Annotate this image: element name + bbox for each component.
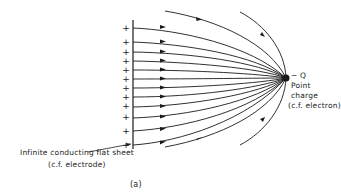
figure-caption: (a) xyxy=(130,180,142,189)
plus-charges: + + + + + + + + + + + + xyxy=(122,23,130,150)
sheet-label-line2: (c.f. electrode) xyxy=(48,160,106,169)
point-charge-dot xyxy=(283,75,290,82)
point-charge-label-line3: (c.f. electron) xyxy=(288,101,341,110)
svg-text:+: + xyxy=(122,37,130,47)
charge-symbol: − Q xyxy=(291,71,306,80)
svg-text:+: + xyxy=(122,126,130,136)
sheet-label-line1: Infinite conducting flat sheet xyxy=(20,148,134,157)
field-lines xyxy=(133,11,286,147)
point-charge-label-line2: charge xyxy=(291,91,318,100)
svg-text:+: + xyxy=(122,112,130,122)
svg-text:+: + xyxy=(122,23,130,33)
point-charge-label-line1: Point xyxy=(291,81,311,90)
svg-text:+: + xyxy=(122,101,130,111)
